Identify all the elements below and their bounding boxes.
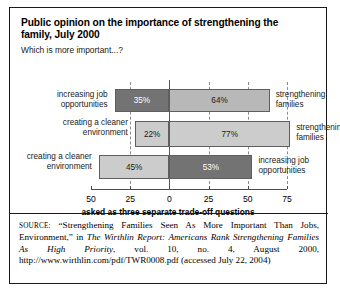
bar-segment-right-row-3: 53% — [169, 155, 252, 179]
x-axis-tick-1 — [130, 186, 131, 189]
source-label: SOURCE: — [19, 222, 51, 230]
x-axis-tick-2 — [169, 186, 170, 189]
x-axis-caption: asked as three separate trade-off questi… — [10, 207, 326, 217]
source-note: SOURCE: “Strengthening Families Seen As … — [19, 220, 319, 267]
source-divider — [10, 213, 328, 214]
row-label-left-2: creating a cleaner environment — [50, 118, 128, 137]
row-label-left-1: increasing job opportunities — [30, 90, 108, 109]
bar-segment-right-row-1: 64% — [169, 89, 269, 112]
row-label-right-2: strengthening families — [296, 123, 340, 142]
bar-segment-left-row-3: 45% — [99, 155, 170, 179]
x-axis-tick-label-4: 50 — [237, 194, 259, 204]
row-label-right-3: increasing job opportunities — [259, 156, 329, 175]
x-axis-tick-4 — [248, 186, 249, 189]
x-axis-tick-label-0: 50 — [80, 194, 102, 204]
x-axis-tick-label-2: 0 — [158, 194, 180, 204]
x-axis-tick-3 — [209, 186, 210, 189]
x-axis-tick-label-3: 25 — [198, 194, 220, 204]
figure-panel: Public opinion on the importance of stre… — [9, 7, 327, 284]
bar-segment-right-row-2: 77% — [169, 121, 290, 147]
bar-segment-left-row-2: 22% — [135, 121, 169, 147]
row-label-right-1: strengthening families — [276, 90, 340, 109]
bar-segment-left-row-1: 35% — [115, 89, 170, 112]
x-axis-tick-0 — [91, 186, 92, 189]
x-axis-tick-5 — [287, 186, 288, 189]
x-axis-tick-label-1: 25 — [119, 194, 141, 204]
x-axis-line — [91, 189, 287, 190]
row-label-left-3: creating a cleaner environment — [14, 152, 92, 171]
x-axis-tick-label-5: 75 — [276, 194, 298, 204]
